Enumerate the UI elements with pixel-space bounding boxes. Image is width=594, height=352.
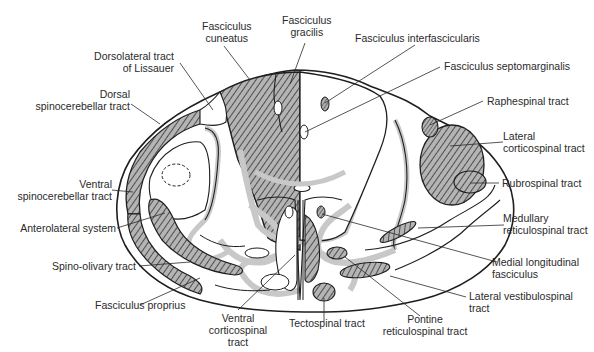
label-tectospinal: Tectospinal tract <box>289 317 365 329</box>
label-fasciculus-gracilis: Fasciculus gracilis <box>282 14 332 38</box>
label-fasciculus-proprius: Fasciculus proprius <box>95 299 185 311</box>
raphespinal-tract <box>422 117 438 137</box>
label-medullary-reticulospinal: Medullary reticulospinal tract <box>503 212 588 236</box>
label-fasciculus-septomarginalis: Fasciculus septomarginalis <box>444 60 570 72</box>
label-dorsolateral-tract: Dorsolateral tract of Lissauer <box>90 50 174 74</box>
fasciculus-septomarginalis <box>300 125 308 139</box>
label-spino-olivary: Spino-olivary tract <box>40 260 136 272</box>
label-fasciculus-cuneatus: Fasciculus cuneatus <box>202 20 252 44</box>
label-lateral-vestibulospinal: Lateral vestibulospinal tract <box>469 290 573 314</box>
fasciculus-interfascicularis <box>321 97 329 111</box>
label-ventral-spinocerebellar: Ventral spinocerebellar tract <box>8 178 112 202</box>
label-ventral-corticospinal: Ventral corticospinal tract <box>200 312 276 348</box>
medial-longitudinal-fasciculus <box>317 206 325 218</box>
label-medial-longitudinal: Medial longitudinal fasciculus <box>492 256 579 280</box>
rubrospinal-tract <box>454 171 486 193</box>
label-pontine-reticulospinal: Pontine reticulospinal tract <box>375 313 475 337</box>
label-dorsal-spinocerebellar: Dorsal spinocerebellar tract <box>30 88 130 112</box>
label-rubrospinal: Rubrospinal tract <box>502 177 581 189</box>
label-raphespinal: Raphespinal tract <box>487 95 569 107</box>
dashed-ellipse <box>162 164 190 186</box>
label-lateral-corticospinal: Lateral corticospinal tract <box>503 130 585 154</box>
label-fasciculus-interfascicularis: Fasciculus interfascicularis <box>355 32 480 44</box>
label-anterolateral-system: Anterolateral system <box>10 222 116 234</box>
gracilis-white-spot <box>274 101 282 115</box>
pontine-reticulospinal-tract <box>327 247 347 259</box>
